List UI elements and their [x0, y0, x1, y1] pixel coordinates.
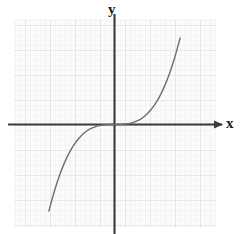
graph-canvas	[0, 0, 244, 234]
x-axis-label: x	[226, 116, 234, 131]
graph-figure: y x	[0, 0, 244, 234]
y-axis-label: y	[108, 2, 116, 17]
